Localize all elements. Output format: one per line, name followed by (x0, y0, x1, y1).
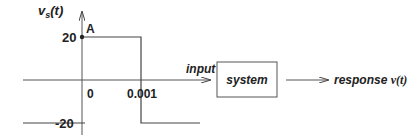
signal-system-diagram: vs(t) A 20 -20 0 0.001 input system resp… (0, 0, 418, 138)
diagram-canvas: vs(t) A 20 -20 0 0.001 input system resp… (0, 0, 418, 138)
y-axis-label: vs(t) (38, 3, 63, 20)
system-label: system (226, 73, 268, 87)
input-label: input (186, 62, 216, 76)
response-label: response v(t) (334, 73, 407, 87)
y-tick-neg20: -20 (55, 116, 74, 131)
x-tick-0: 0 (87, 87, 94, 101)
point-a-dot (80, 35, 84, 39)
point-a-label: A (86, 22, 95, 36)
x-tick-0001: 0.001 (127, 87, 157, 101)
y-tick-20: 20 (62, 30, 76, 45)
